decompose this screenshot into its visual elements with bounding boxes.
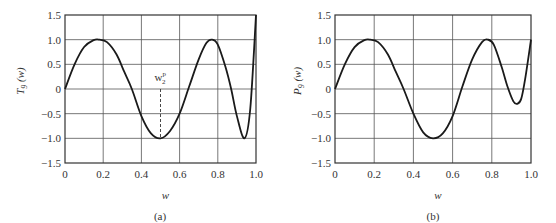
y-tick-label: −0.5 bbox=[41, 108, 61, 120]
y-tick-label: 0 bbox=[326, 83, 332, 95]
y-tick-label: 0 bbox=[56, 83, 62, 95]
y-tick-label: 1.5 bbox=[317, 9, 331, 21]
annotation-label: wp2 bbox=[155, 70, 167, 86]
x-tick-label: 0.6 bbox=[446, 168, 460, 180]
x-tick-label: 0 bbox=[62, 168, 68, 180]
y-tick-label: 1.0 bbox=[47, 34, 61, 46]
x-tick-label: 1.0 bbox=[249, 168, 263, 180]
x-tick-label: 1.0 bbox=[524, 168, 538, 180]
y-tick-label: −0.5 bbox=[311, 108, 331, 120]
x-tick-label: 0.4 bbox=[135, 168, 149, 180]
x-tick-label: 0.8 bbox=[485, 168, 499, 180]
y-axis-label: P9 (w) bbox=[291, 67, 306, 96]
panel-a: 1.51.00.50−0.5−1.0−1.500.20.40.60.81.0w(… bbox=[14, 9, 263, 223]
x-tick-label: 0.4 bbox=[407, 168, 421, 180]
y-tick-label: 1.0 bbox=[317, 34, 331, 46]
figure: 1.51.00.50−0.5−1.0−1.500.20.40.60.81.0w(… bbox=[0, 0, 556, 223]
y-tick-label: −1.0 bbox=[311, 132, 331, 144]
x-tick-label: 0 bbox=[332, 168, 338, 180]
x-axis-label: w bbox=[162, 189, 170, 201]
panel-caption: (b) bbox=[427, 210, 440, 223]
x-tick-label: 0.2 bbox=[367, 168, 381, 180]
y-tick-label: 0.5 bbox=[317, 58, 331, 70]
y-tick-label: −1.5 bbox=[41, 157, 61, 169]
panel-caption: (a) bbox=[154, 210, 167, 223]
panel-b: 1.51.00.50−0.5−1.0−1.500.20.40.60.81.0w(… bbox=[291, 9, 538, 223]
x-tick-label: 0.2 bbox=[96, 168, 110, 180]
y-tick-label: 0.5 bbox=[47, 58, 61, 70]
y-tick-label: −1.5 bbox=[311, 157, 331, 169]
x-tick-label: 0.6 bbox=[173, 168, 187, 180]
y-tick-label: 1.5 bbox=[47, 9, 61, 21]
x-axis-label: w bbox=[434, 189, 442, 201]
y-axis-label: T9 (w) bbox=[14, 67, 29, 95]
x-tick-label: 0.8 bbox=[211, 168, 225, 180]
y-tick-label: −1.0 bbox=[41, 132, 61, 144]
